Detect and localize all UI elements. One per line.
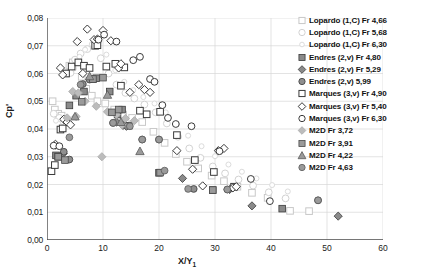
legend-label: M2D Fr 3,91 [309,139,353,148]
legend-label: Marques (3,v) Fr 6,30 [309,114,387,123]
legend-marker-square-icon [296,138,309,149]
series-points [53,40,290,194]
legend-label: Lopardo (1,C) Fr 4,66 [309,16,387,25]
y-tick-label: 0,07 [27,41,43,51]
legend-item[interactable]: Endres (2,v) Fr 5,29 [296,63,429,75]
legend-marker-circle-icon [296,76,309,87]
legend-label: Endres (2,v) 5,99 [309,77,371,86]
legend-item[interactable]: Lopardo (1,C) Fr 5,68 [296,26,429,38]
legend-marker-diamond-icon [296,101,309,112]
legend-marker-diamond-icon [296,64,309,75]
legend-marker-square-icon [296,52,309,63]
legend-marker-square-icon [296,15,309,26]
legend-item[interactable]: Endres (2,v) 5,99 [296,75,429,87]
legend-item[interactable]: M2D Fr 4,22 [296,149,429,161]
y-axis-title: Cp' [4,104,14,118]
legend-marker-triangle-icon [296,150,309,161]
legend-label: Marques (3,v) Fr 5,40 [309,102,387,111]
y-tick-label: 0,08 [27,13,43,23]
legend-marker-circle-icon [296,113,309,124]
legend-label: M2D Fr 3,72 [309,126,353,135]
legend-item[interactable]: Endres (2,v) Fr 4,80 [296,51,429,63]
x-tick-label: 40 [266,243,275,253]
y-tick-label: 0,02 [27,180,43,190]
chart-legend: Lopardo (1,C) Fr 4,66Lopardo (1,C) Fr 5,… [296,14,429,174]
chart-figure: 0,000,010,020,030,040,050,060,070,08 Cp'… [0,0,431,278]
y-tick-label: 0,05 [27,96,43,106]
legend-label: Lopardo (1,C) Fr 6,30 [309,40,387,49]
x-axis-tick-labels: 0102030405060 [47,243,383,257]
y-tick-label: 0,04 [27,124,43,134]
legend-marker-circle-icon [296,162,309,173]
legend-label: Endres (2,v) Fr 4,80 [309,53,381,62]
legend-label: Endres (2,v) Fr 5,29 [309,65,381,74]
legend-label: M2D Fr 4,63 [309,163,353,172]
legend-label: M2D Fr 4,22 [309,151,353,160]
x-tick-label: 20 [154,243,163,253]
legend-marker-diamond-icon [296,125,309,136]
legend-item[interactable]: M2D Fr 3,91 [296,137,429,149]
legend-item[interactable]: Lopardo (1,C) Fr 6,30 [296,39,429,51]
legend-marker-square-icon [296,88,309,99]
legend-item[interactable]: M2D Fr 4,63 [296,162,429,174]
x-axis-title: X/Y1 [178,256,196,268]
legend-label: Lopardo (1,C) Fr 5,68 [309,28,387,37]
legend-item[interactable]: Marques (3,v) Fr 6,30 [296,112,429,124]
x-tick-label: 0 [45,243,50,253]
legend-marker-circle-small-icon [296,39,309,50]
legend-marker-circle-icon [296,27,309,38]
y-tick-label: 0,01 [27,207,43,217]
y-tick-label: 0,00 [27,235,43,245]
legend-item[interactable]: Lopardo (1,C) Fr 4,66 [296,14,429,26]
y-axis-tick-labels: 0,000,010,020,030,040,050,060,070,08 [0,18,43,240]
legend-item[interactable]: M2D Fr 3,72 [296,125,429,137]
x-axis-title-subscript: 1 [193,261,197,268]
x-tick-label: 50 [322,243,331,253]
legend-item[interactable]: Marques (3,v) Fr 4,90 [296,88,429,100]
y-tick-label: 0,06 [27,69,43,79]
x-axis-title-main: X/Y [178,256,193,266]
x-tick-label: 30 [210,243,219,253]
x-tick-label: 60 [378,243,387,253]
legend-label: Marques (3,v) Fr 4,90 [309,89,387,98]
legend-item[interactable]: Marques (3,v) Fr 5,40 [296,100,429,112]
x-tick-label: 10 [98,243,107,253]
y-tick-label: 0,03 [27,152,43,162]
